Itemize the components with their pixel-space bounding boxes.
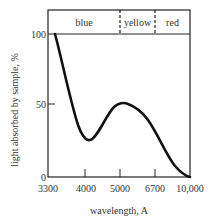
x-tick-label-6700: 6700 (145, 183, 165, 194)
band-label-yellow: yellow (124, 17, 152, 28)
x-tick-label-10000: 10,000 (176, 183, 204, 194)
x-tick-label-3300: 3300 (38, 183, 58, 194)
absorption-curve (55, 34, 190, 177)
band-label-blue: blue (75, 17, 93, 28)
band-label-red: red (166, 17, 179, 28)
y-axis-label: light absorbed by sample, % (9, 53, 20, 167)
x-tick-label-5000: 5000 (110, 183, 130, 194)
absorption-chart: blue yellow red 100 50 0 3300 4000 5000 … (0, 0, 213, 222)
x-tick-label-4000: 4000 (76, 183, 96, 194)
y-tick-label-0: 0 (41, 172, 46, 183)
x-axis-label: wavelength, A (90, 205, 149, 216)
y-tick-label-50: 50 (36, 99, 46, 110)
y-tick-label-100: 100 (31, 29, 46, 40)
